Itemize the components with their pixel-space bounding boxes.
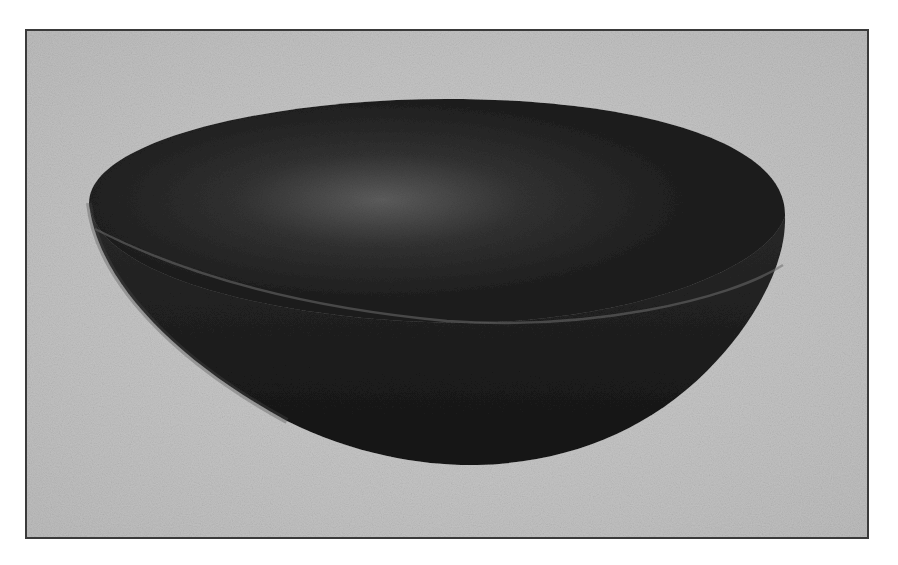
photo-frame: bowl xyxy=(25,29,869,539)
bowl-photograph xyxy=(27,31,867,537)
